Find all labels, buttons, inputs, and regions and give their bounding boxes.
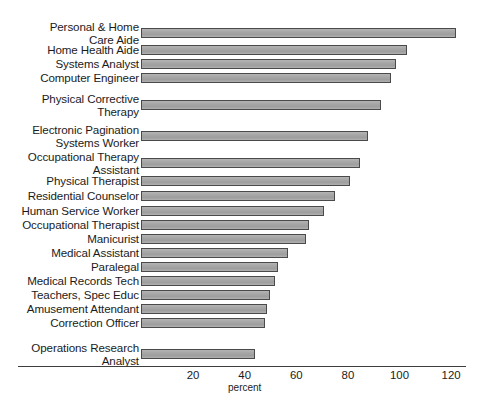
value-axis-title: percent (228, 382, 261, 394)
bar (141, 248, 288, 258)
value-axis-tick-label: 60 (290, 369, 303, 382)
value-axis-tick-label: 40 (238, 369, 251, 382)
bar (141, 73, 391, 83)
bar (141, 191, 335, 201)
horizontal-bar-chart: Personal & Home Care AideHome Health Aid… (0, 0, 478, 406)
value-axis-tick-label: 20 (187, 369, 200, 382)
bar (141, 304, 267, 314)
bar (141, 276, 275, 286)
bar (141, 59, 396, 69)
value-axis-tick-label: 100 (390, 369, 409, 382)
bar (141, 45, 407, 55)
bar (141, 262, 278, 272)
bar (141, 206, 324, 216)
bar (141, 28, 456, 38)
bar (141, 131, 368, 141)
bar (141, 100, 381, 110)
bar (141, 349, 255, 359)
value-axis-line (18, 366, 466, 367)
bar (141, 158, 360, 168)
plot-area (0, 0, 478, 366)
value-axis-tick-label: 120 (442, 369, 461, 382)
bar (141, 176, 350, 186)
bar (141, 290, 270, 300)
bar (141, 220, 309, 230)
value-axis-tick-label: 80 (342, 369, 355, 382)
bar (141, 234, 306, 244)
bar (141, 318, 265, 328)
